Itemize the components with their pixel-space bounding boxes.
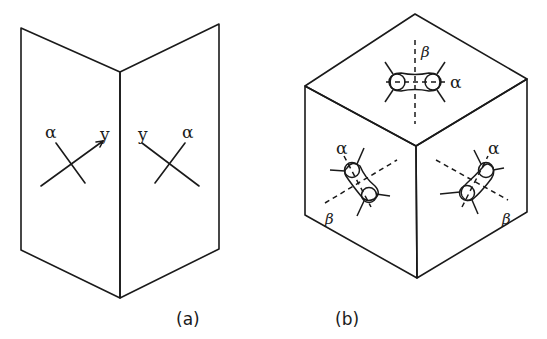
y-axis-arrow-left — [41, 141, 103, 186]
alpha-axis-left — [56, 143, 85, 183]
bond-icon — [385, 90, 393, 102]
label-beta-right-face: β — [501, 210, 511, 228]
ring-icon — [345, 163, 360, 178]
bond-icon — [385, 62, 393, 74]
bond-icon — [330, 170, 345, 171]
y-axis-right — [142, 143, 199, 186]
label-beta-top: β — [420, 43, 430, 61]
alpha-axis-right — [155, 143, 185, 183]
bond-icon — [357, 148, 364, 164]
label-beta-left-face: β — [324, 210, 334, 228]
label-y-left: y — [99, 124, 110, 144]
cube-left-face — [305, 86, 417, 278]
label-alpha-top: α — [450, 72, 462, 92]
panel-b: β α α β α β — [305, 14, 527, 329]
label-alpha-left: α — [45, 122, 57, 142]
left-face-molecule: α β — [324, 138, 397, 228]
panel-a: α y y α (a) — [21, 24, 219, 329]
left-plane-axes: α y — [41, 122, 110, 186]
bond-icon — [437, 90, 445, 102]
caption-a: (a) — [176, 309, 200, 329]
label-y-right: y — [137, 124, 148, 144]
label-alpha-right-face: α — [488, 138, 500, 158]
cube-top-face — [305, 14, 527, 146]
label-alpha-left-face: α — [336, 138, 348, 158]
right-face-molecule: α β — [436, 138, 511, 228]
figure-canvas: α y y α (a) β α — [0, 0, 547, 339]
top-face-molecule: β α — [385, 40, 462, 124]
right-plane-axes: y α — [137, 122, 199, 186]
bond-icon — [437, 62, 445, 74]
bond-icon — [474, 150, 481, 164]
bond-icon — [472, 200, 478, 214]
bond-icon — [493, 168, 504, 170]
bond-icon — [357, 201, 364, 216]
bond-icon — [440, 192, 460, 194]
label-alpha-right: α — [182, 122, 194, 142]
right-plane — [120, 24, 219, 298]
caption-b: (b) — [335, 309, 359, 329]
